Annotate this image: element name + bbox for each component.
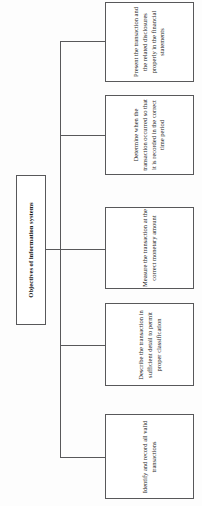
child-node-5-label: Identify and record all valid transactio… [141, 416, 159, 497]
child-node-2-label: Determine when the transaction occurred … [132, 97, 167, 173]
child-node-4-label: Describe the transaction in sufficient d… [136, 305, 162, 384]
connector-branch-1 [60, 41, 105, 42]
diagram-canvas: Objectives of information systems Presen… [0, 0, 202, 506]
connector-branch-4 [60, 345, 105, 346]
root-node[interactable]: Objectives of information systems [16, 175, 46, 325]
root-node-label: Objectives of information systems [27, 176, 35, 324]
child-node-4[interactable]: Describe the transaction in sufficient d… [105, 303, 194, 386]
child-node-1[interactable]: Present the transaction and the related … [105, 2, 194, 82]
child-node-2[interactable]: Determine when the transaction occurred … [105, 95, 194, 175]
connector-root-stem [46, 249, 61, 250]
child-node-3-label: Measure the transaction at the correct m… [141, 209, 159, 287]
connector-branch-3 [60, 249, 105, 250]
child-node-1-label: Present the transaction and the related … [132, 4, 167, 80]
child-node-3[interactable]: Measure the transaction at the correct m… [105, 207, 194, 289]
child-node-5[interactable]: Identify and record all valid transactio… [105, 414, 194, 499]
connector-branch-5 [60, 457, 105, 458]
connector-branch-2 [60, 135, 105, 136]
